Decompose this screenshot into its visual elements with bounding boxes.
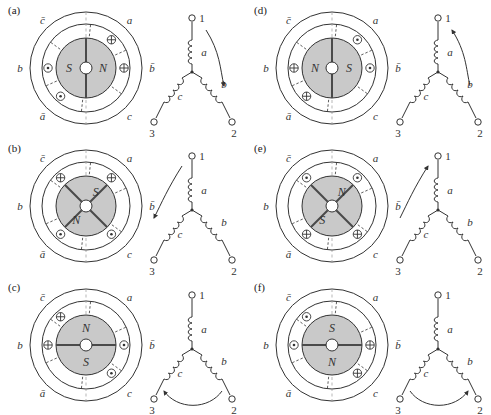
terminal-node-1[interactable] [435,15,441,21]
current-direction-arrow [400,166,428,218]
current-symbol-a [353,174,361,182]
current-symbol-b [44,64,52,72]
current-symbol-abar [56,230,64,238]
machine-diagram-e: NSc̄abb̄āc [272,144,392,270]
phase-label-bottom_right: c [127,110,132,122]
phase-label-left: b [263,339,269,351]
phase-label-bottom_right: c [373,110,378,122]
phase-label-left: b [263,200,269,212]
terminal-node-2[interactable] [475,396,481,402]
lead-terminal-2 [468,379,476,395]
terminal-label-1: 1 [199,150,205,162]
rotor-pole-N: N [71,213,81,227]
rotor-pole-S: S [83,355,89,369]
current-symbol-a [107,174,115,182]
terminal-label-2: 2 [477,265,483,277]
terminal-node-1[interactable] [435,292,441,298]
current-symbol-abar [302,92,310,100]
phase-label-left: b [17,339,23,351]
coil-label-a: a [447,46,453,58]
terminal-label-1: 1 [445,12,451,24]
rotor-pole-N: N [327,355,337,369]
panel-b: (b)SNc̄abb̄āc123abc [0,138,245,276]
terminal-node-2[interactable] [229,257,235,263]
node-lead-c [428,349,438,355]
coil-label-a: a [447,323,453,335]
panel-e: (e)NSc̄abb̄āc123abc [246,138,491,276]
phase-label-bottom_left: ā [286,110,292,122]
stator-cross-section-e: NSc̄abb̄āc [272,144,392,270]
terminal-node-3[interactable] [151,257,157,263]
rotor-shaft-hub [326,200,338,212]
lead-terminal-2 [468,102,476,118]
terminal-node-1[interactable] [189,292,195,298]
machine-diagram-a: SNc̄abb̄āc [26,6,146,132]
terminal-label-3: 3 [395,404,401,415]
current-symbol-cbar [56,313,64,321]
circuit-diagram-a: 123abc [140,2,245,136]
terminal-node-3[interactable] [151,119,157,125]
rotor-pole-N: N [98,61,108,75]
panel-label-c: (c) [8,281,20,293]
circuit-diagram-f: 123abc [386,279,491,413]
lead-terminal-3 [156,240,164,256]
terminal-label-2: 2 [231,404,237,415]
wye-circuit-a: 123abc [140,2,245,136]
panel-c: (c)NSc̄abb̄āc123abc [0,277,245,415]
terminal-node-2[interactable] [229,119,235,125]
wye-circuit-d: 123abc [386,2,491,136]
terminal-label-1: 1 [445,289,451,301]
coil-label-c: c [178,228,183,240]
terminal-label-1: 1 [199,12,205,24]
star-point [190,208,193,211]
panel-d: (d)NSc̄abb̄āc123abc [246,0,491,138]
rotor-pole-N: N [337,185,347,199]
coil-label-b: b [467,78,473,90]
current-symbol-cbar [302,313,310,321]
star-point [190,70,193,73]
lead-terminal-3 [402,379,410,395]
stator-cross-section-f: SNc̄abb̄āc [272,283,392,409]
circuit-diagram-b: 123abc [140,140,245,274]
terminal-node-2[interactable] [229,396,235,402]
terminal-node-1[interactable] [189,153,195,159]
coil-label-b: b [221,216,227,228]
terminal-label-1: 1 [199,289,205,301]
coil-label-b: b [467,216,473,228]
node-lead-c [182,210,192,216]
current-symbol-cbar [56,174,64,182]
rotor-shaft-hub [80,339,92,351]
current-symbol-c [107,369,115,377]
panel-label-d: (d) [254,4,267,16]
star-point [436,347,439,350]
phase-label-bottom_right: c [373,387,378,399]
terminal-node-3[interactable] [397,257,403,263]
coil-a [434,317,438,341]
terminal-node-1[interactable] [189,15,195,21]
stator-cross-section-a: SNc̄abb̄āc [26,6,146,132]
terminal-node-2[interactable] [475,257,481,263]
terminal-label-3: 3 [395,265,401,277]
terminal-node-3[interactable] [397,119,403,125]
panel-label-f: (f) [254,281,265,293]
coil-label-c: c [178,367,183,379]
node-lead-c [428,72,438,78]
terminal-node-1[interactable] [435,153,441,159]
star-point [436,208,439,211]
terminal-node-2[interactable] [475,119,481,125]
phase-label-top_right: a [127,152,133,164]
circuit-diagram-d: 123abc [386,2,491,136]
current-symbol-cbar [302,174,310,182]
wye-circuit-b: 123abc [140,140,245,274]
rotor-pole-S: S [93,185,99,199]
terminal-node-3[interactable] [151,396,157,402]
coil-a [188,40,192,64]
phase-label-top_left: c̄ [286,152,291,164]
node-lead-b [438,349,448,355]
phase-label-top_right: a [127,291,133,303]
terminal-node-3[interactable] [397,396,403,402]
phase-label-top_right: a [373,14,379,26]
node-lead-b [192,349,202,355]
current-direction-arrow [164,391,222,405]
current-symbol-bbar [120,341,128,349]
